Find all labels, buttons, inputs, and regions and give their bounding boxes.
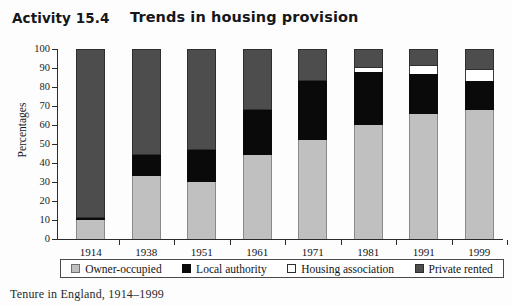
x-tick-mark bbox=[341, 240, 342, 245]
plot-area: 0102030405060708090100 19141938195119611… bbox=[57, 49, 501, 239]
bar-1938 bbox=[132, 49, 161, 239]
chart-title: Trends in housing provision bbox=[130, 9, 358, 25]
y-tick-mark bbox=[52, 239, 57, 240]
chart-header: Activity 15.4 Trends in housing provisio… bbox=[0, 0, 512, 36]
bar-segment-local bbox=[76, 218, 105, 220]
bar-segment-owner bbox=[409, 114, 438, 239]
bar-segment-local bbox=[409, 74, 438, 114]
x-tick-label-1914: 1914 bbox=[61, 247, 121, 258]
y-tick-label: 20 bbox=[23, 196, 50, 207]
plot-wrapper: Percentages 0102030405060708090100 19141… bbox=[0, 36, 512, 258]
bar-segment-local bbox=[243, 110, 272, 156]
bar-segment-owner bbox=[465, 110, 494, 239]
bar-1914 bbox=[76, 49, 105, 239]
y-tick-label: 90 bbox=[23, 63, 50, 74]
bar-segment-owner bbox=[76, 220, 105, 239]
y-tick-label: 60 bbox=[23, 120, 50, 131]
y-tick-mark bbox=[52, 163, 57, 164]
y-tick-mark bbox=[52, 182, 57, 183]
bar-segment-housing bbox=[465, 70, 494, 81]
bar-segment-private bbox=[298, 49, 327, 81]
bar-segment-housing bbox=[409, 66, 438, 74]
x-tick-mark bbox=[230, 240, 231, 245]
y-tick-mark bbox=[52, 125, 57, 126]
bar-segment-owner bbox=[298, 140, 327, 239]
y-tick-label: 40 bbox=[23, 158, 50, 169]
x-tick-label-1999: 1999 bbox=[449, 247, 509, 258]
y-tick-label: 30 bbox=[23, 177, 50, 188]
x-tick-mark bbox=[452, 240, 453, 245]
x-tick-label-1938: 1938 bbox=[116, 247, 176, 258]
bar-segment-private bbox=[187, 49, 216, 150]
y-tick-label: 80 bbox=[23, 82, 50, 93]
x-tick-mark bbox=[174, 240, 175, 245]
bar-segment-private bbox=[132, 49, 161, 155]
legend-label: Local authority bbox=[196, 263, 267, 275]
y-tick-label: 50 bbox=[23, 139, 50, 150]
figure-caption: Tenure in England, 1914–1999 bbox=[10, 287, 164, 302]
x-axis-line bbox=[57, 239, 503, 240]
legend-label: Owner-occupied bbox=[85, 263, 161, 275]
y-tick-mark bbox=[52, 106, 57, 107]
x-tick-label-1961: 1961 bbox=[227, 247, 287, 258]
bar-1961 bbox=[243, 49, 272, 239]
y-tick-label: 0 bbox=[23, 234, 50, 245]
activity-label: Activity 15.4 bbox=[12, 10, 110, 26]
x-tick-mark bbox=[285, 240, 286, 245]
chart-legend: Owner-occupiedLocal authorityHousing ass… bbox=[60, 259, 504, 278]
bar-1999 bbox=[465, 49, 494, 239]
y-tick-mark bbox=[52, 68, 57, 69]
bar-segment-local bbox=[354, 72, 383, 125]
y-axis-line bbox=[57, 49, 58, 240]
x-tick-label-1981: 1981 bbox=[338, 247, 398, 258]
bar-segment-owner bbox=[187, 182, 216, 239]
bar-segment-private bbox=[354, 49, 383, 68]
x-tick-label-1991: 1991 bbox=[394, 247, 454, 258]
legend-item-owner: Owner-occupied bbox=[71, 263, 161, 275]
bar-segment-private bbox=[76, 49, 105, 218]
bar-segment-owner bbox=[243, 155, 272, 239]
y-tick-label: 70 bbox=[23, 101, 50, 112]
bar-1971 bbox=[298, 49, 327, 239]
x-tick-label-1951: 1951 bbox=[172, 247, 232, 258]
bar-1951 bbox=[187, 49, 216, 239]
y-tick-mark bbox=[52, 220, 57, 221]
legend-item-private: Private rented bbox=[415, 263, 493, 275]
chart-page: Activity 15.4 Trends in housing provisio… bbox=[0, 0, 512, 306]
bar-segment-housing bbox=[354, 68, 383, 72]
x-tick-mark bbox=[396, 240, 397, 245]
legend-swatch-icon-owner bbox=[71, 264, 80, 273]
legend-label: Housing association bbox=[301, 263, 394, 275]
bar-segment-local bbox=[298, 81, 327, 140]
legend-swatch-icon-local bbox=[182, 264, 191, 273]
y-tick-mark bbox=[52, 144, 57, 145]
bar-segment-owner bbox=[132, 176, 161, 239]
x-tick-label-1971: 1971 bbox=[283, 247, 343, 258]
y-tick-mark bbox=[52, 87, 57, 88]
bar-segment-private bbox=[243, 49, 272, 110]
y-tick-mark bbox=[52, 201, 57, 202]
y-tick-label: 10 bbox=[23, 215, 50, 226]
bar-1991 bbox=[409, 49, 438, 239]
x-tick-mark bbox=[507, 240, 508, 245]
y-tick-mark bbox=[52, 49, 57, 50]
bar-segment-local bbox=[132, 155, 161, 176]
bar-segment-local bbox=[187, 150, 216, 182]
legend-label: Private rented bbox=[429, 263, 493, 275]
bar-1981 bbox=[354, 49, 383, 239]
bar-segment-private bbox=[409, 49, 438, 66]
legend-swatch-icon-private bbox=[415, 264, 424, 273]
bar-segment-owner bbox=[354, 125, 383, 239]
bar-segment-private bbox=[465, 49, 494, 70]
legend-swatch-icon-housing bbox=[287, 264, 296, 273]
bar-segment-local bbox=[465, 81, 494, 110]
legend-item-local: Local authority bbox=[182, 263, 267, 275]
x-tick-mark bbox=[119, 240, 120, 245]
legend-item-housing: Housing association bbox=[287, 263, 394, 275]
y-tick-label: 100 bbox=[23, 44, 50, 55]
